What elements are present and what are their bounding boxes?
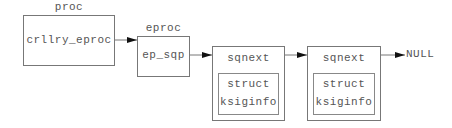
eproc-box: ep_sqp (137, 36, 190, 77)
eproc-title: eproc (137, 22, 190, 34)
proc-title: proc (23, 1, 115, 13)
null-terminator: NULL (406, 48, 434, 60)
eproc-field: ep_sqp (138, 49, 189, 61)
node-2-inner-line2: ksiginfo (314, 96, 374, 108)
node-2-field: sqnext (308, 52, 380, 64)
proc-field: crllry_eproc (24, 34, 114, 46)
node-1-ksiginfo-box: struct ksiginfo (218, 73, 279, 115)
node-2-inner-line1: struct (314, 78, 374, 90)
node-1-inner-line2: ksiginfo (219, 96, 278, 108)
proc-box: crllry_eproc (23, 15, 115, 66)
node-2-ksiginfo-box: struct ksiginfo (313, 73, 375, 115)
sqnext-node-2: sqnext struct ksiginfo (307, 46, 381, 121)
node-1-field: sqnext (213, 52, 284, 64)
node-1-inner-line1: struct (219, 78, 278, 90)
sqnext-node-1: sqnext struct ksiginfo (212, 46, 285, 121)
